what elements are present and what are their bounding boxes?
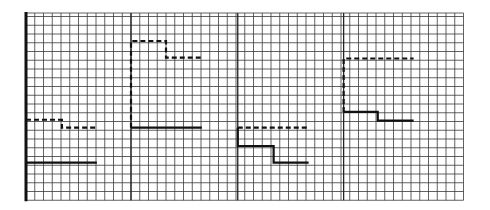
dashed-series-panel-2 <box>131 41 202 128</box>
solid-series-panel-3 <box>238 128 309 163</box>
step-chart <box>0 0 490 210</box>
series-lines <box>26 41 414 163</box>
dashed-series-panel-1 <box>26 120 97 128</box>
panel-dividers <box>131 13 344 200</box>
solid-series-panel-4 <box>344 112 414 121</box>
graph-paper-grid <box>26 13 464 200</box>
